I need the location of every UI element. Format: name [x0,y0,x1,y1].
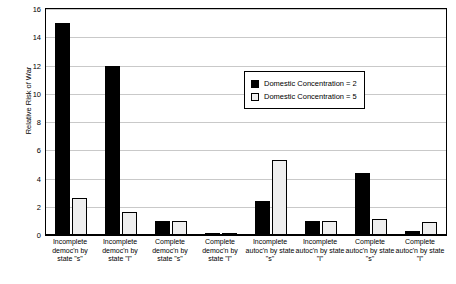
legend-item-series-2: Domestic Concentration = 5 [251,90,357,103]
plot-area [46,9,446,235]
x-axis-category-label: Complete autoc'n by state "l" [395,238,445,264]
legend-item-series-1: Domestic Concentration = 2 [251,77,357,90]
y-axis-tick-label: 0 [37,231,41,240]
bar-group [146,9,196,235]
bar-group [46,9,96,235]
bar [55,23,70,235]
bar-group [396,9,446,235]
bar [72,198,87,235]
bar-group [296,9,346,235]
x-axis-category-label: Complete democ'n by state "s" [145,238,195,264]
y-axis-tick-label: 4 [37,174,41,183]
x-axis-category-labels: Incomplete democ'n by state "s"Incomplet… [45,238,447,282]
bar [305,221,320,235]
bar-group [246,9,296,235]
bar [122,212,137,235]
y-axis-tick-label: 16 [33,5,41,14]
x-axis-category-label: Complete autoc'n by state "s" [345,238,395,264]
x-axis-category-label: Incomplete democ'n by state "l" [95,238,145,264]
bar [155,221,170,235]
bar [372,219,387,235]
y-axis-tick-labels: 0246810121416 [0,0,45,236]
bar-group [96,9,146,235]
bar [322,221,337,235]
bars-layer [46,9,446,235]
x-axis-category-label: Incomplete autoc'n by state "l" [295,238,345,264]
x-axis-category-label: Incomplete autoc'n by state "s" [245,238,295,264]
legend-label: Domestic Concentration = 5 [264,92,357,101]
y-axis-tick-label: 8 [37,118,41,127]
bar-chart: Relative Risk of War 0246810121416 Domes… [0,0,456,284]
bar-group [196,9,246,235]
legend-swatch-icon [251,80,259,88]
legend: Domestic Concentration = 2 Domestic Conc… [244,71,365,109]
plot-frame: Domestic Concentration = 2 Domestic Conc… [45,8,447,236]
bar [255,201,270,235]
legend-swatch-icon [251,93,259,101]
x-axis-line [46,234,446,235]
y-axis-tick-label: 10 [33,89,41,98]
x-axis-category-label: Complete democ'n by state "l" [195,238,245,264]
bar [172,221,187,235]
legend-label: Domestic Concentration = 2 [264,79,357,88]
x-axis-category-label: Incomplete democ'n by state "s" [45,238,95,264]
bar [272,160,287,235]
y-axis-tick-label: 2 [37,202,41,211]
bar-group [346,9,396,235]
y-axis-tick-label: 6 [37,146,41,155]
y-axis-tick-label: 12 [33,61,41,70]
bar [105,66,120,236]
bar [355,173,370,235]
y-axis-tick-label: 14 [33,33,41,42]
